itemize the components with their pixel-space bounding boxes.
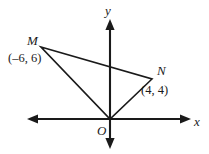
y-axis-label: y: [105, 4, 111, 17]
point-coordinates-m: (–6, 6): [8, 52, 41, 65]
triangle-outline: [41, 47, 152, 119]
point-label-m: M: [27, 34, 38, 47]
y-axis-arrow-down-icon: [105, 138, 114, 149]
y-axis: [105, 19, 114, 149]
x-axis-arrow-right-icon: [180, 114, 191, 123]
x-axis-label: x: [194, 115, 200, 128]
point-coordinates-n: (4, 4): [141, 84, 168, 97]
point-label-n: N: [157, 64, 166, 77]
x-axis-arrow-left-icon: [27, 114, 38, 123]
coordinate-plane-figure: y x O M (–6, 6) N (4, 4): [0, 0, 209, 154]
y-axis-arrow-up-icon: [105, 19, 114, 30]
origin-label: O: [97, 124, 106, 137]
triangle-mno: [41, 47, 152, 119]
